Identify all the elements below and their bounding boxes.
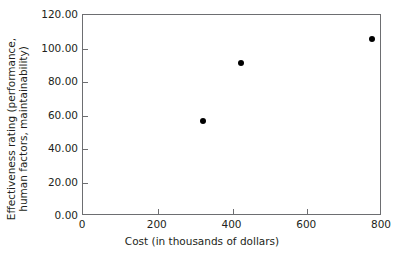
y-axis-tick-label: 0.00	[55, 210, 78, 221]
y-axis-tick	[83, 149, 88, 150]
y-axis-tick	[83, 116, 88, 117]
data-point	[200, 118, 206, 124]
y-axis-tick	[83, 183, 88, 184]
y-axis-tick-label: 120.00	[41, 9, 78, 20]
y-axis-tick-label: 40.00	[48, 143, 78, 154]
y-axis-tick-label: 80.00	[48, 76, 78, 87]
x-axis-tick-label: 0	[79, 219, 86, 230]
data-point	[369, 36, 375, 42]
x-axis-tick	[158, 209, 159, 214]
y-axis-tick-label: 20.00	[48, 177, 78, 188]
x-axis-tick-label: 200	[147, 219, 167, 230]
data-point	[238, 60, 244, 66]
y-axis-title-line-1: Effectiveness rating (performance,	[5, 38, 18, 220]
x-axis-tick	[233, 209, 234, 214]
x-axis-tick-label: 800	[371, 219, 391, 230]
y-axis-tick	[83, 49, 88, 50]
y-axis-tick-label: 100.00	[41, 43, 78, 54]
plot-frame	[82, 14, 381, 215]
x-axis-tick-label: 600	[296, 219, 316, 230]
y-axis-tick-label: 60.00	[48, 110, 78, 121]
x-axis-title: Cost (in thousands of dollars)	[0, 235, 404, 247]
y-axis-title: Effectiveness rating (performance, human…	[0, 0, 34, 258]
y-axis-title-line-2: human factors, maintainability)	[17, 38, 30, 220]
scatter-chart-figure: 0.0020.0040.0060.0080.00100.00120.00 020…	[0, 0, 404, 258]
x-axis-tick-label: 400	[221, 219, 241, 230]
plot-area	[83, 15, 380, 214]
x-axis-tick	[307, 209, 308, 214]
y-axis-tick	[83, 82, 88, 83]
